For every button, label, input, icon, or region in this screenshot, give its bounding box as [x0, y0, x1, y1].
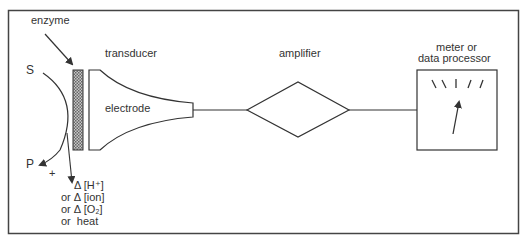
- meter-label-line2: data processor: [418, 52, 491, 64]
- product-label: P: [26, 158, 34, 170]
- output-item: or Δ [O₂]: [61, 203, 104, 215]
- substrate-to-product-arrow: [40, 73, 68, 165]
- transducer-label: transducer: [105, 47, 157, 59]
- enzyme-arrow: [45, 34, 72, 64]
- plus-label: +: [49, 167, 55, 179]
- amplifier-diamond: [247, 82, 349, 137]
- electrode-label: electrode: [105, 102, 150, 114]
- output-item: or Δ [ion]: [61, 191, 104, 203]
- enzyme-membrane: [73, 70, 83, 150]
- enzyme-label: enzyme: [31, 14, 70, 26]
- output-arrow: [67, 133, 72, 182]
- output-item: Δ [H⁺]: [61, 179, 104, 191]
- substrate-label: S: [26, 64, 34, 76]
- output-item: or heat: [61, 215, 104, 227]
- amplifier-label: amplifier: [279, 47, 321, 59]
- output-list: Δ [H⁺] or Δ [ion] or Δ [O₂] or heat: [61, 179, 104, 227]
